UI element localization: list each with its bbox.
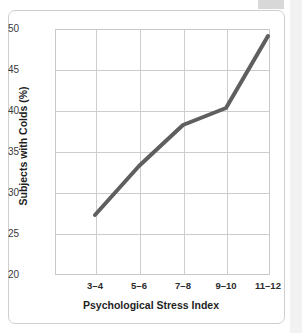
gridline-x-9-10: [227, 30, 228, 274]
gridline-x-5-6: [140, 30, 141, 274]
gridline-y-40: [56, 111, 269, 112]
gridline-y-35: [56, 152, 269, 153]
x-axis-title: Psychological Stress Index: [20, 299, 282, 311]
gridline-x-3-4: [96, 30, 97, 274]
plot-area: [55, 29, 270, 275]
x-tick-label-4: 11–12: [240, 281, 296, 291]
y-tick-label-50: 50: [0, 24, 19, 34]
line-chart: 50 45 40 35 30 25 20 3–4 5–6 7–8 9–10 11…: [0, 0, 302, 333]
gridline-y-45: [56, 70, 269, 71]
gridline-x-7-8: [184, 30, 185, 274]
y-axis-title: Subjects with Colds (%): [17, 61, 29, 231]
gridline-y-25: [56, 234, 269, 235]
y-tick-label-20: 20: [0, 270, 19, 280]
gridline-y-30: [56, 193, 269, 194]
